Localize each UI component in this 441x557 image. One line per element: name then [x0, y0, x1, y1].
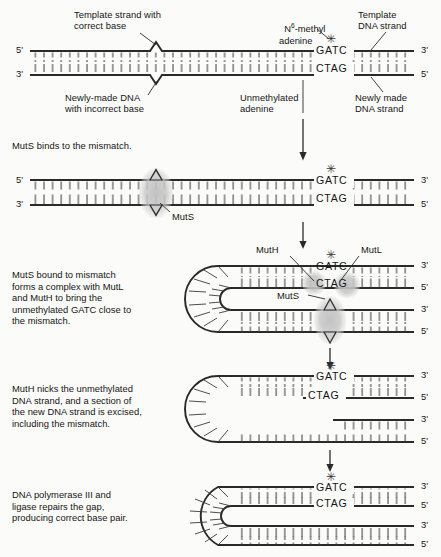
panel2-muts-label: MutS	[172, 211, 194, 222]
panel5-sequence-top: GATC	[316, 482, 347, 493]
panel2-newly-made-strand	[30, 205, 414, 215]
panel3-dna	[185, 256, 414, 344]
panel1-newly-made-strand	[30, 75, 414, 84]
label-unmethylated-adenine: Unmethylated adenine	[240, 92, 298, 115]
panel4-end-3prime-3: 3'	[421, 413, 428, 424]
panel4-end-3prime-1: 3'	[421, 369, 428, 380]
panel3-end-5prime-4: 5'	[421, 325, 428, 336]
panel5-end-5prime-4: 5'	[421, 538, 428, 549]
panel3-end-3prime-1: 3'	[421, 259, 428, 270]
leader-newly-made-dna	[371, 77, 383, 92]
panel3-muth-label: MutH	[256, 244, 279, 255]
panel2-template-strand	[30, 170, 414, 180]
panel3-sequence-top: GATC	[316, 261, 347, 272]
arrow-4-5	[326, 450, 333, 472]
panel2-end-3prime-left: 3'	[16, 198, 23, 209]
panel1-dna	[30, 42, 414, 84]
panel3-end-5prime-2: 5'	[421, 281, 428, 292]
panel1-end-3prime-left: 3'	[16, 68, 23, 79]
panel5-caption: DNA polymerase III and ligase repairs th…	[12, 489, 187, 524]
panel3-end-3prime-3: 3'	[421, 303, 428, 314]
panel1-sequence-top: GATC	[316, 45, 347, 56]
label-newly-made-dna-strand: Newly made DNA strand	[355, 92, 407, 115]
panel2-sequence-bottom: CTAG	[316, 193, 347, 204]
panel2-dna	[30, 168, 414, 218]
panel3-sequence-bottom: CTAG	[316, 278, 347, 289]
panel1-end-5prime-right: 5'	[421, 68, 428, 79]
panel5-bend-rungs	[190, 487, 228, 545]
panel2-end-5prime-right: 5'	[421, 198, 428, 209]
arrow-2-3	[299, 222, 306, 249]
label-template-correct-base: Template strand with correct base	[74, 9, 161, 32]
panel2-end-5prime-left: 5'	[16, 174, 23, 185]
leader-muts-panel3	[308, 295, 325, 299]
panel3-caption: MutS bound to mismatch forms a complex w…	[12, 269, 187, 327]
panel4-caption: MutH nicks the unmethylated DNA strand, …	[12, 383, 187, 429]
panel1-end-5prime-left: 5'	[16, 44, 23, 55]
panel5-end-5prime-2: 5'	[421, 499, 428, 510]
panel1-template-strand	[30, 42, 414, 51]
panel3-mutl-label: MutL	[361, 244, 382, 255]
leader-template-dna	[371, 32, 386, 50]
panel2-end-3prime-right: 3'	[421, 174, 428, 185]
panel5-dna	[190, 487, 414, 545]
panel1-sequence-bottom: CTAG	[316, 63, 347, 74]
methyl-adenine-n: N	[284, 23, 291, 34]
leader-template-correct	[140, 33, 156, 45]
panel5-end-3prime-1: 3'	[421, 480, 428, 491]
label-methyl-adenine: N6-methyl adenine	[279, 9, 325, 46]
panel2-sequence-top: GATC	[316, 175, 347, 186]
panel1-end-3prime-right: 3'	[421, 44, 428, 55]
panel5-end-3prime-3: 3'	[421, 519, 428, 530]
panel4-end-5prime-2: 5'	[421, 391, 428, 402]
arrow-1-2	[299, 119, 306, 161]
panel5-sequence-bottom: CTAG	[316, 498, 347, 509]
figure-canvas: Template strand with correct base N6-met…	[0, 0, 441, 557]
label-template-dna-strand: Template DNA strand	[358, 9, 406, 32]
label-newly-made-incorrect: Newly-made DNA with incorrect base	[65, 92, 144, 115]
panel2-caption: MutS binds to the mismatch.	[12, 140, 132, 151]
panel4-sequence-top: GATC	[316, 371, 347, 382]
leader-newly-incorrect	[148, 81, 157, 95]
panel4-sequence-bottom: CTAG	[308, 390, 339, 401]
panel3-muts-label: MutS	[277, 290, 299, 301]
panel4-end-5prime-4: 5'	[421, 435, 428, 446]
panel4-dna	[185, 376, 414, 442]
